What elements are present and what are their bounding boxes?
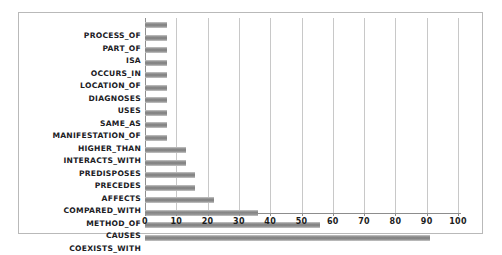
x-tick-40: [270, 213, 271, 216]
bar-row: [145, 144, 460, 157]
bar-row: [145, 132, 460, 145]
x-axis-line: [145, 213, 461, 214]
bar-row: [145, 69, 460, 82]
x-tick-label: 70: [358, 217, 370, 226]
bar-same-as[interactable]: [145, 110, 167, 116]
bar-manifestation-of[interactable]: [145, 122, 167, 128]
y-tick-label: USES: [118, 105, 141, 118]
bar-row: [145, 157, 460, 170]
bar-process-of[interactable]: [145, 22, 167, 28]
bar-row: [145, 44, 460, 57]
x-tick-label: 80: [390, 217, 402, 226]
bar-row: [145, 232, 460, 245]
x-tick-label: 60: [327, 217, 339, 226]
bar-row: [145, 19, 460, 32]
bar-compared-with[interactable]: [145, 197, 214, 203]
bar-row: [145, 94, 460, 107]
x-tick-90: [427, 213, 428, 216]
x-tick-label: 0: [142, 217, 148, 226]
y-tick-label: ISA: [126, 55, 141, 68]
bar-row: [145, 32, 460, 45]
plot-area: [145, 18, 460, 214]
y-tick-label: PART_OF: [102, 43, 141, 56]
bar-coexists-with[interactable]: [145, 235, 430, 241]
bar-row: [145, 169, 460, 182]
bar-higher-than[interactable]: [145, 135, 167, 141]
bar-diagnoses[interactable]: [145, 85, 167, 91]
y-tick-label: COMPARED_WITH: [64, 205, 141, 218]
x-tick-label: 90: [421, 217, 433, 226]
x-tick-80: [395, 213, 396, 216]
x-axis-tick-labels: 0102030405060708090100: [145, 217, 461, 231]
bar-interacts-with[interactable]: [145, 147, 186, 153]
x-tick-10: [176, 213, 177, 216]
y-tick-label: LOCATION_OF: [80, 80, 141, 93]
y-tick-label: PROCESS_OF: [84, 30, 141, 43]
x-tick-label: 40: [264, 217, 276, 226]
y-tick-label: HIGHER_THAN: [78, 143, 141, 156]
y-tick-label: MANIFESTATION_OF: [52, 130, 141, 143]
bar-occurs-in[interactable]: [145, 60, 167, 66]
bar-chart-figure: PROCESS_OFPART_OFISAOCCURS_INLOCATION_OF…: [18, 12, 483, 234]
bar-uses[interactable]: [145, 97, 167, 103]
bar-row: [145, 57, 460, 70]
x-tick-60: [333, 213, 334, 216]
x-tick-20: [208, 213, 209, 216]
y-tick-label: DIAGNOSES: [89, 93, 141, 106]
bar-precedes[interactable]: [145, 172, 195, 178]
y-tick-label: OCCURS_IN: [91, 68, 141, 81]
y-tick-label: PREDISPOSES: [79, 168, 141, 181]
y-tick-label: PRECEDES: [95, 180, 141, 193]
y-axis-category-labels: PROCESS_OFPART_OFISAOCCURS_INLOCATION_OF…: [19, 30, 141, 226]
x-tick-label: 100: [449, 217, 467, 226]
y-tick-label: SAME_AS: [100, 118, 141, 131]
bar-location-of[interactable]: [145, 72, 167, 78]
x-tick-label: 10: [170, 217, 182, 226]
x-tick-50: [302, 213, 303, 216]
x-tick-label: 30: [233, 217, 245, 226]
y-tick-label: INTERACTS_WITH: [63, 155, 141, 168]
bar-predisposes[interactable]: [145, 160, 186, 166]
y-tick-label: METHOD_OF: [86, 218, 141, 231]
bar-row: [145, 194, 460, 207]
x-tick-70: [364, 213, 365, 216]
bar-affects[interactable]: [145, 185, 195, 191]
bar-part-of[interactable]: [145, 35, 167, 41]
bars-layer: [145, 18, 460, 214]
x-tick-100: [458, 213, 459, 216]
bar-row: [145, 182, 460, 195]
y-tick-label: AFFECTS: [102, 193, 141, 206]
y-tick-label: COEXISTS_WITH: [69, 243, 141, 255]
x-tick-label: 50: [296, 217, 308, 226]
x-tick-label: 20: [202, 217, 214, 226]
bar-row: [145, 119, 460, 132]
x-tick-30: [239, 213, 240, 216]
bar-isa[interactable]: [145, 47, 167, 53]
bar-row: [145, 82, 460, 95]
bar-row: [145, 107, 460, 120]
x-tick-0: [145, 213, 146, 216]
y-tick-label: CAUSES: [106, 230, 141, 243]
